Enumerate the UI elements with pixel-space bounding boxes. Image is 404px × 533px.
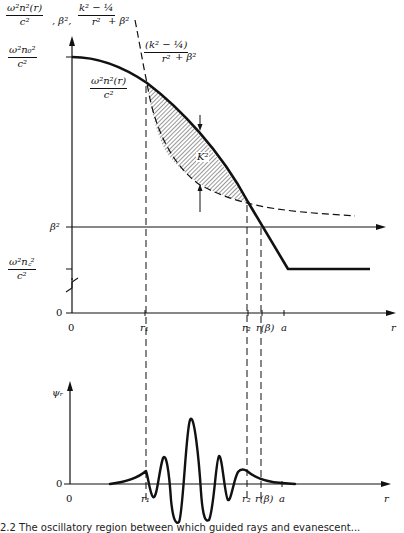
top-x-tick-r1: r₁ <box>140 323 149 333</box>
k-squared-label: K² <box>196 152 209 162</box>
bottom-x-axis-arrow-icon <box>381 481 391 487</box>
top-y-zero-label: 0 <box>56 308 62 318</box>
k-squared-shaded-region <box>147 83 247 202</box>
psi-r-axis-label: ψᵣ <box>52 388 63 398</box>
bottom-y-axis-arrow-icon <box>67 381 73 391</box>
bottom-x-tick-0: 0 <box>66 494 72 504</box>
centrifugal-curve-label-tail: + β² <box>175 52 196 62</box>
y-axis-title-tail: + β² <box>108 16 129 26</box>
top-x-tick-a: a <box>281 323 287 333</box>
bottom-x-tick-r1: r₁ <box>141 494 150 504</box>
cladding-index-level-label: ω²n꜀² c² <box>8 257 36 281</box>
top-x-tick-r2: r₂ <box>242 323 251 333</box>
bottom-x-tick-r2: r₂ <box>242 494 251 504</box>
top-x-tick-r: r <box>391 323 396 333</box>
top-y-axis-arrow-icon <box>69 36 75 46</box>
bottom-x-tick-r: r <box>384 494 389 504</box>
figure-caption: 2.2 The oscillatory region between which… <box>0 522 360 533</box>
bottom-y-zero-label: 0 <box>56 479 62 489</box>
top-x-tick-0: 0 <box>68 323 74 333</box>
beta-line-arrow-icon <box>376 224 386 230</box>
radial-wavefunction-curve <box>110 419 295 523</box>
top-x-tick-r-beta: r(β) <box>256 323 274 333</box>
y-axis-title-index-term: ω²n²(r) c² <box>6 3 43 27</box>
bottom-x-tick-a: a <box>279 494 285 504</box>
bottom-x-tick-r-beta: r(β) <box>255 494 273 504</box>
core-index-level-label: ω²n₀² c² <box>8 45 37 69</box>
y-axis-title-separator: , β², <box>52 16 71 26</box>
top-x-axis-arrow-icon <box>386 310 396 316</box>
index-curve-label: ω²n²(r) c² <box>90 76 127 100</box>
beta-squared-label: β² <box>50 222 60 232</box>
